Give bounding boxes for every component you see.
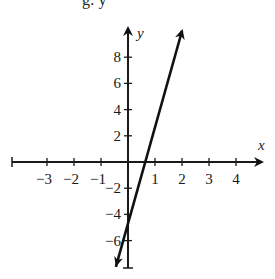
line-graph: −3−2−11234−6−4−22468 x y [0,0,275,279]
x-tick-label: −3 [36,171,52,187]
y-tick-label: 4 [114,102,122,118]
x-tick-label: 4 [232,171,240,187]
x-axis-label: x [257,137,265,153]
x-tick-label: 2 [178,171,186,187]
tick-marks [47,57,236,240]
y-tick-label: 6 [114,75,122,91]
x-tick-label: −2 [63,171,79,187]
y-tick-label: 8 [114,49,122,65]
y-tick-label: −2 [105,180,121,196]
x-tick-label: −1 [90,171,106,187]
x-tick-label: 3 [205,171,213,187]
plotted-line [116,31,182,267]
y-tick-label: 2 [114,128,122,144]
x-tick-label: 1 [151,171,159,187]
data-series [114,31,182,267]
tick-labels: −3−2−11234−6−4−22468 [36,49,240,248]
y-tick-label: −6 [105,233,121,249]
axes [12,28,262,268]
y-axis-label: y [135,25,144,41]
y-tick-label: −4 [105,206,121,222]
